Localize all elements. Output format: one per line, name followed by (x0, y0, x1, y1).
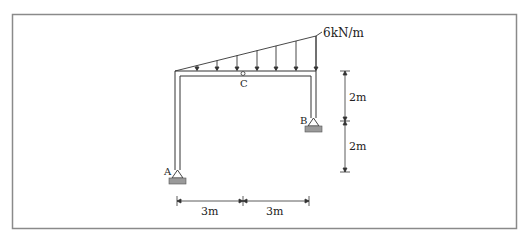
dim-horizontal-left: 3m (201, 205, 219, 218)
load-arrows (195, 36, 318, 71)
load-magnitude-label: 6kN/m (323, 26, 364, 40)
pin-support-b-icon (305, 118, 322, 132)
hinge-c-icon (241, 72, 245, 76)
node-label-a: A (163, 166, 172, 177)
frame-diagram: C 6kN/m A B 2m 2m (0, 0, 527, 241)
dim-horizontal-right: 3m (266, 205, 284, 218)
figure-border (13, 15, 517, 229)
horizontal-dimension (177, 196, 309, 206)
dim-vertical-lower: 2m (349, 140, 367, 153)
dim-vertical-upper: 2m (349, 91, 367, 104)
distributed-load (175, 32, 322, 71)
pin-support-a-icon (169, 170, 186, 184)
vertical-dimension (340, 71, 350, 172)
node-label-c: C (240, 78, 248, 89)
node-label-b: B (300, 115, 307, 126)
